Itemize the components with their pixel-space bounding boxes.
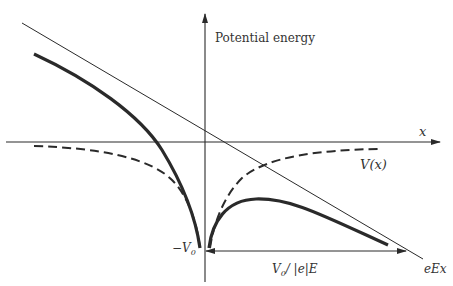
total-potential-left-curve [34,54,200,248]
image-potential-right-curve [210,149,378,248]
minus-v0-main: −V [172,241,191,255]
total-potential-right-curve [209,199,388,248]
barrier-distance-label: V0/ |e|E [272,262,318,278]
x-axis-label: x [419,124,426,139]
minus-v0-label: −V0 [172,241,196,257]
barrier-distance-v: V [272,262,281,276]
image-potential-left-curve [34,146,200,248]
applied-field-line [22,23,423,259]
minus-v0-subscript: 0 [191,248,196,257]
field-line-label: eEx [424,262,447,276]
image-potential-label: V(x) [360,157,387,172]
barrier-distance-rest: / |e|E [286,262,318,276]
y-axis-label: Potential energy [215,31,315,45]
